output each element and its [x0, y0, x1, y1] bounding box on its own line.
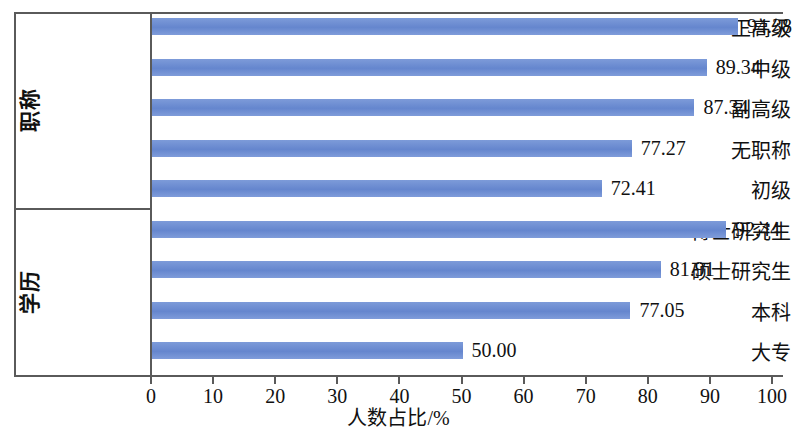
bar-value-label: 87.34 [703, 99, 748, 116]
bar [152, 59, 707, 76]
category-label: 初级 [649, 181, 797, 201]
category-label: 大专 [649, 343, 797, 363]
x-axis-tick [461, 377, 463, 384]
x-axis-tick [274, 377, 276, 384]
bar [152, 302, 630, 319]
bar-value-label: 50.00 [472, 342, 517, 359]
group-axis-label-education: 学历 [0, 208, 56, 375]
bar-value-label: 81.91 [670, 261, 715, 278]
x-axis-tick [709, 377, 711, 384]
bar-value-label: 72.41 [611, 180, 656, 197]
x-axis-tick [523, 377, 525, 384]
bar-value-label: 77.05 [639, 302, 684, 319]
x-axis-tick [771, 377, 773, 384]
bar [152, 140, 632, 157]
bar [152, 99, 694, 116]
bar-value-label: 92.44 [735, 221, 780, 238]
x-axis-tick [212, 377, 214, 384]
x-axis-tick [585, 377, 587, 384]
group-axis-label-occupation: 职称 [0, 12, 56, 208]
bar [152, 261, 661, 278]
x-axis-tick [647, 377, 649, 384]
bar-value-label: 77.27 [641, 140, 686, 157]
bar [152, 342, 463, 359]
bar [152, 221, 726, 238]
bar [152, 180, 602, 197]
chart-top-border [14, 12, 783, 14]
bar [152, 18, 738, 35]
x-axis-tick [336, 377, 338, 384]
bar-value-label: 89.34 [716, 59, 761, 76]
group-axis-label-occupation-text: 职称 [13, 88, 43, 132]
x-axis-title: 人数占比/% [0, 402, 797, 431]
group-axis-label-education-text: 学历 [13, 270, 43, 314]
bar-value-label: 94.38 [747, 18, 792, 35]
x-axis-tick [150, 377, 152, 384]
x-axis-tick [398, 377, 400, 384]
